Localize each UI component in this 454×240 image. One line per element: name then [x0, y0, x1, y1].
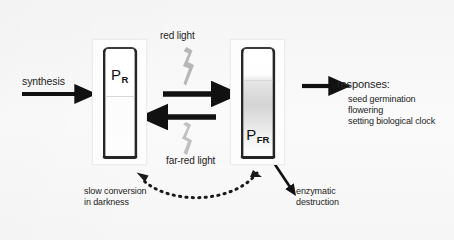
slow-conversion-line-1: slow conversion: [84, 186, 147, 197]
pr-symbol: P: [111, 66, 121, 83]
slow-conversion-dashed-arrow: [137, 170, 263, 198]
pfr-subscript: FR: [257, 134, 270, 145]
red-light-bolt-icon: [183, 47, 194, 86]
far-red-light-bolt-icon: [182, 122, 192, 155]
responses-heading: responses:: [337, 79, 390, 91]
responses-item-0: seed germination: [348, 94, 415, 105]
synthesis-label: synthesis: [22, 76, 65, 88]
pr-tube-label: PR: [105, 67, 134, 84]
red-light-label: red light: [160, 30, 195, 42]
pr-tube-container: PR: [92, 39, 147, 165]
pfr-tube: PFR: [240, 47, 275, 159]
pfr-tube-container: PFR: [230, 39, 285, 165]
pfr-tube-label: PFR: [243, 127, 272, 144]
pr-tube-meniscus: [105, 96, 134, 97]
pr-tube: PR: [102, 47, 137, 159]
enzymatic-line-1: enzymatic: [296, 186, 336, 197]
pr-subscript: R: [122, 74, 129, 85]
slow-conversion-line-2: in darkness: [84, 197, 129, 208]
enzymatic-line-2: destruction: [296, 197, 339, 208]
pfr-symbol: P: [246, 126, 256, 143]
responses-item-2: setting biological clock: [348, 116, 435, 127]
far-red-light-label: far-red light: [166, 155, 215, 166]
responses-item-1: flowering: [348, 105, 383, 116]
pfr-tube-meniscus: [243, 80, 272, 81]
phytochrome-diagram: PR PFR synthesis red light far-red light…: [0, 0, 454, 240]
